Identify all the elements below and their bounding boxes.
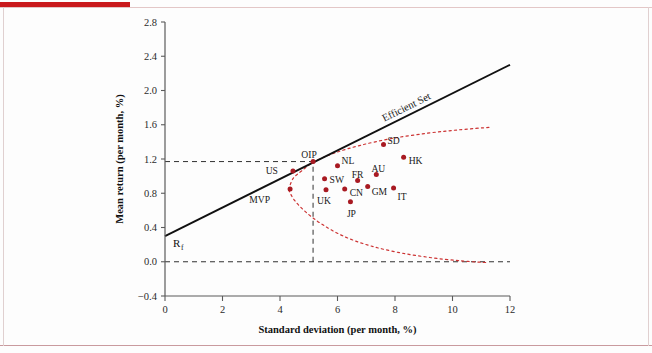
data-point-marker [290, 168, 295, 173]
y-axis-tick-label: 2.8 [144, 17, 157, 28]
data-point-label: HK [409, 155, 423, 166]
data-point-label: CN [350, 187, 363, 198]
y-axis-tick-label: 2.4 [144, 51, 158, 62]
figure-container: 024681012 −0.40.00.40.81.21.62.02.42.8 U… [0, 0, 652, 353]
x-axis-tick-label: 6 [335, 304, 340, 315]
data-point-marker [322, 176, 327, 181]
y-axis-tick-label: 0.0 [144, 256, 157, 267]
y-axis-tick-label: 0.8 [144, 188, 157, 199]
x-axis-tick-label: 2 [220, 304, 225, 315]
data-point-label: FR [352, 169, 364, 180]
data-point-marker [342, 186, 347, 191]
x-axis-tick-label: 8 [392, 304, 397, 315]
y-axis-tick-label: 1.2 [144, 154, 157, 165]
y-axis-tick-label: 2.0 [144, 85, 157, 96]
data-point-marker [324, 187, 329, 192]
efficient-set-line [165, 65, 510, 236]
y-axis-tick-label: 0.4 [144, 222, 158, 233]
data-point-label: SW [330, 174, 345, 185]
data-point-marker [381, 142, 386, 147]
guide-lines-group [165, 162, 313, 262]
data-point-label: MVP [249, 194, 270, 205]
data-point-marker [391, 186, 396, 191]
data-point-label: OIP [301, 149, 316, 160]
data-point-label: UK [317, 195, 331, 206]
annotations-group: Efficient SetRf [173, 90, 432, 251]
data-point-label: JP [347, 208, 356, 219]
data-point-label: AU [371, 163, 385, 174]
data-point-marker [348, 199, 353, 204]
x-axis-ticks-group: 024681012 [162, 296, 515, 315]
data-points-group: USMVPOIPSWUKNLCNJPFRGMAUSDITHK [249, 135, 422, 219]
data-point-label: NL [342, 155, 355, 166]
scatter-chart: 024681012 −0.40.00.40.81.21.62.02.42.8 U… [0, 0, 652, 353]
capital-market-line-group [165, 65, 510, 236]
data-point-marker [288, 186, 293, 191]
y-axis-tick-label: 1.6 [144, 119, 157, 130]
x-axis-tick-label: 12 [505, 304, 516, 315]
x-axis-tick-label: 0 [162, 304, 167, 315]
x-axis-title: Standard deviation (per month, %) [258, 324, 417, 336]
y-axis-tick-label: −0.4 [138, 291, 158, 302]
data-point-marker [365, 184, 370, 189]
y-axis-ticks-group: −0.40.00.40.81.21.62.02.42.8 [138, 17, 165, 302]
x-axis-tick-label: 10 [447, 304, 458, 315]
data-point-marker [335, 163, 340, 168]
data-point-label: IT [398, 191, 407, 202]
risk-free-rate-label: Rf [173, 237, 184, 252]
data-point-label: SD [388, 135, 400, 146]
x-axis-tick-label: 4 [277, 304, 283, 315]
data-point-label: GM [372, 186, 388, 197]
axes-group [165, 22, 510, 296]
data-point-label: US [266, 165, 278, 176]
data-point-marker [401, 155, 406, 160]
y-axis-title: Mean return (per month, %) [114, 94, 126, 224]
